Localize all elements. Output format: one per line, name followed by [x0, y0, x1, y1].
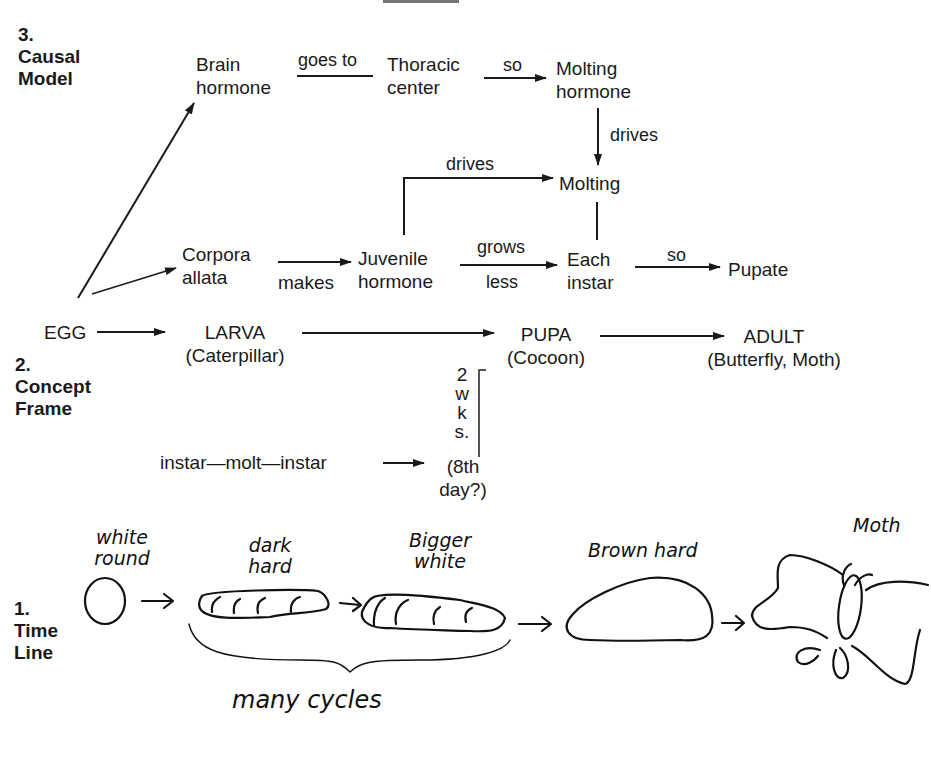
egg-sketch-label: white round [84, 527, 160, 569]
duration-label: 2 w k s. [450, 365, 474, 441]
node-corpora-allata: Corpora allata [182, 243, 251, 289]
moth-sketch-label: Moth [853, 515, 901, 536]
edge-label-grows: grows [477, 237, 525, 257]
edge-label-drives: drives [610, 125, 658, 145]
stage-egg: EGG [44, 321, 86, 344]
node-thoracic-center: Thoracic center [387, 53, 460, 99]
stage-adult: ADULT (Butterfly, Moth) [688, 325, 860, 371]
stage-larva: LARVA (Caterpillar) [172, 321, 298, 367]
stage-pupa: PUPA (Cocoon) [494, 323, 598, 369]
node-juvenile-hormone: Juvenile hormone [358, 247, 433, 293]
larva-sketch-label: dark hard [225, 535, 315, 577]
edge-label-makes: makes [278, 273, 334, 293]
node-molting-hormone: Molting hormone [556, 57, 631, 103]
edge-label-less: less [486, 272, 518, 292]
node-each-instar: Each instar [567, 248, 613, 294]
bigger-larva-sketch-label: Bigger white [395, 530, 485, 572]
node-brain-hormone: Brain hormone [196, 53, 271, 99]
edge-label-drives: drives [446, 154, 494, 174]
cocoon-sketch-label: Brown hard [588, 540, 698, 561]
edge-label-so: so [503, 55, 522, 75]
node-pupate: Pupate [728, 258, 788, 281]
edge-label-goes-to: goes to [298, 50, 357, 70]
brace-label: many cycles [232, 690, 382, 711]
edge-label-so: so [667, 245, 686, 265]
eighth-day-label: (8th day?) [428, 455, 498, 501]
instar-molt-sequence: instar—molt—instar [160, 451, 327, 474]
node-molting: Molting [559, 172, 620, 195]
